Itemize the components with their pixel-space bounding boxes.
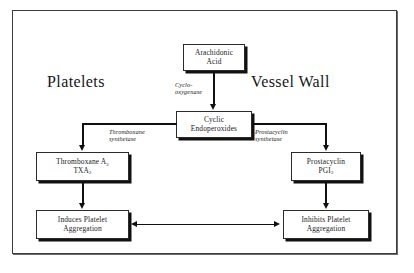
node-inhibits-platelet-aggregation: Inhibits Platelet Aggregation <box>283 210 369 239</box>
node-thromboxane-a2-line2-subscript: 2 <box>89 170 92 175</box>
node-prostacyclin-pgi2-line2-subscript: 2 <box>331 170 334 175</box>
connector-cyclic-to-thromboxane-vertical <box>82 123 84 146</box>
connector-cyclic-to-thromboxane-horizontal <box>82 123 177 125</box>
node-induces-platelet-aggregation-line2: Aggregation <box>63 225 102 233</box>
node-thromboxane-a2: Thromboxane A2 TXA2 <box>36 152 129 181</box>
node-thromboxane-a2-line2-text: TXA <box>73 166 89 175</box>
node-prostacyclin-pgi2-line2: PGI2 <box>319 167 334 175</box>
arrowhead-down-to-cyclic <box>210 104 216 110</box>
diagram-frame: Platelets Vessel Wall Arachidonic Acid C… <box>12 10 397 254</box>
arrowhead-left-to-induces <box>131 221 137 227</box>
node-cyclic-endoperoxides: Cyclic Endoperoxides <box>176 111 252 138</box>
node-induces-platelet-aggregation: Induces Platelet Aggregation <box>36 210 129 239</box>
node-thromboxane-a2-line1-subscript: 2 <box>106 162 109 167</box>
diagram-canvas: Platelets Vessel Wall Arachidonic Acid C… <box>13 11 396 253</box>
enzyme-label-thromboxane-synthetase-line2: synthetase <box>109 135 145 142</box>
enzyme-label-thromboxane-synthetase: Thromboxane synthetase <box>109 128 145 143</box>
enzyme-label-prostacyclin-synthetase-line2: synthetase <box>255 135 288 142</box>
arrowhead-down-to-prostacyclin <box>323 145 329 151</box>
section-heading-vessel-wall: Vessel Wall <box>251 73 330 91</box>
enzyme-label-prostacyclin-synthetase: Prostacyclin synthetase <box>255 128 288 143</box>
enzyme-label-prostacyclin-synthetase-line1: Prostacyclin <box>255 128 288 135</box>
node-prostacyclin-pgi2: Prostacyclin PGI2 <box>291 152 361 181</box>
connector-cyclic-to-prostacyclin-horizontal <box>252 123 327 125</box>
arrowhead-down-to-inhibits <box>323 203 329 209</box>
node-inhibits-platelet-aggregation-line2: Aggregation <box>307 225 346 233</box>
node-arachidonic-acid-line2: Acid <box>207 58 222 66</box>
enzyme-label-cyclooxygenase-line2: oxygenase <box>175 88 202 95</box>
connector-arachidonic-to-cyclic <box>213 73 215 105</box>
enzyme-label-thromboxane-synthetase-line1: Thromboxane <box>109 128 145 135</box>
arrowhead-right-to-inhibits <box>274 221 280 227</box>
node-thromboxane-a2-line2: TXA2 <box>73 167 91 175</box>
connector-thromboxane-to-induces <box>82 183 84 204</box>
node-cyclic-endoperoxides-line2: Endoperoxides <box>191 125 237 133</box>
connector-bidirectional-induces-inhibits <box>137 224 275 226</box>
connector-prostacyclin-to-inhibits <box>325 183 327 204</box>
arrowhead-down-to-induces <box>79 203 85 209</box>
node-prostacyclin-pgi2-line2-text: PGI <box>319 166 331 175</box>
section-heading-platelets: Platelets <box>47 73 105 91</box>
arrowhead-down-to-thromboxane <box>79 145 85 151</box>
node-arachidonic-acid: Arachidonic Acid <box>183 44 245 71</box>
enzyme-label-cyclooxygenase-line1: Cyclo- <box>175 81 202 88</box>
enzyme-label-cyclooxygenase: Cyclo- oxygenase <box>175 81 202 96</box>
connector-cyclic-to-prostacyclin-vertical <box>325 123 327 146</box>
